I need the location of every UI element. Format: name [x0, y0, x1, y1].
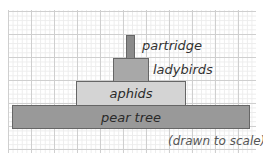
label-aphids: aphids — [109, 86, 152, 101]
label-ladybirds: ladybirds — [153, 62, 213, 77]
scale-note: (drawn to scale) — [168, 134, 263, 148]
bar-partridge — [126, 35, 135, 59]
bar-aphids: aphids — [76, 81, 186, 106]
label-partridge: partridge — [142, 38, 202, 53]
label-pear-tree: pear tree — [101, 110, 161, 125]
bar-pear-tree: pear tree — [12, 105, 250, 129]
bar-ladybirds — [113, 58, 149, 82]
